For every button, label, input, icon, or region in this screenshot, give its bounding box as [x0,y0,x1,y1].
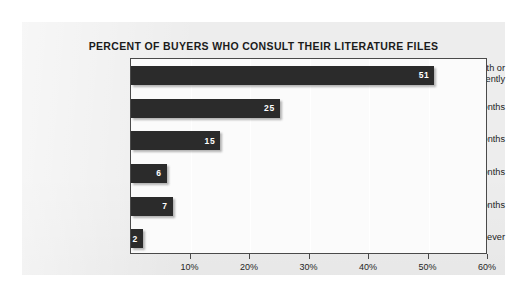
x-axis-tick [190,254,191,259]
bar: 51 [131,66,434,85]
x-axis-tick-label: 30% [299,262,317,272]
plot-area: 512515672 [130,58,487,254]
x-axis-tick-label: 50% [418,262,436,272]
x-axis-tick [428,254,429,259]
x-axis-tick-label: 60% [478,262,496,272]
bar-value-label: 7 [162,202,167,211]
x-axis-tick [309,254,310,259]
bar-value-label: 25 [264,104,275,113]
gridline [310,59,311,253]
x-axis-tick-label: 40% [359,262,377,272]
bar: 6 [131,164,167,183]
x-axis-tick-label: 20% [240,262,258,272]
gridline [250,59,251,253]
bar: 25 [131,99,280,118]
figure-panel: PERCENT OF BUYERS WHO CONSULT THEIR LITE… [22,22,505,275]
bar-value-label: 15 [205,136,216,145]
x-axis-tick [487,254,488,259]
x-axis-tick [249,254,250,259]
x-axis-tick [368,254,369,259]
gridline [191,59,192,253]
bar: 7 [131,197,173,216]
bar: 15 [131,131,220,150]
x-axis-tick-label: 10% [180,262,198,272]
bar-value-label: 6 [156,169,161,178]
gridline [429,59,430,253]
bar-value-label: 2 [133,234,138,243]
figure-page: PERCENT OF BUYERS WHO CONSULT THEIR LITE… [0,0,527,293]
gridline [369,59,370,253]
bar-value-label: 51 [419,71,430,80]
plot-inner: 512515672 [131,59,486,253]
bar: 2 [131,229,143,248]
chart-title: PERCENT OF BUYERS WHO CONSULT THEIR LITE… [22,40,505,52]
